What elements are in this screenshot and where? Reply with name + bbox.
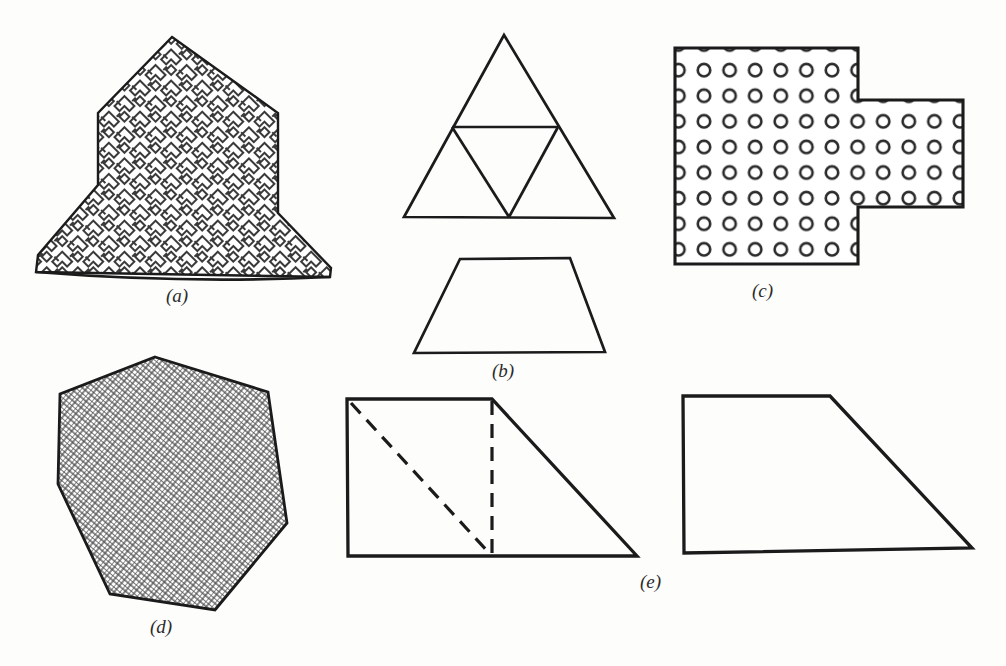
figure-d-hexagon [58,357,287,610]
figure-a-group [36,37,331,280]
figure-b-midline-right [509,127,558,217]
figure-label-c: (c) [752,280,773,302]
figure-e-right-outline [683,396,972,553]
figure-b-midline-left [452,127,509,217]
figure-c-fill [675,48,963,264]
figure-label-a: (a) [166,285,188,307]
figure-e-left-group [347,399,637,556]
figure-canvas [0,0,1006,666]
figure-label-e: (e) [640,571,661,593]
figure-label-d: (d) [150,616,172,638]
figure-e-dashed-diagonal [351,403,490,554]
figure-a-shape [36,37,331,277]
figure-b-triangle-group [404,35,614,218]
figure-c-group [675,48,963,264]
figure-b-trapezoid [414,258,605,353]
figure-label-b: (b) [492,360,514,382]
